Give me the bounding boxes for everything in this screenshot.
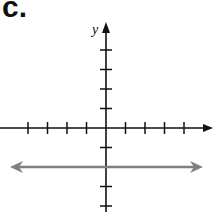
coordinate-plane: y xyxy=(0,0,214,212)
y-axis-arrow-icon xyxy=(102,22,110,33)
x-axis-arrow-icon xyxy=(203,124,213,132)
y-axis-label: y xyxy=(90,22,99,37)
